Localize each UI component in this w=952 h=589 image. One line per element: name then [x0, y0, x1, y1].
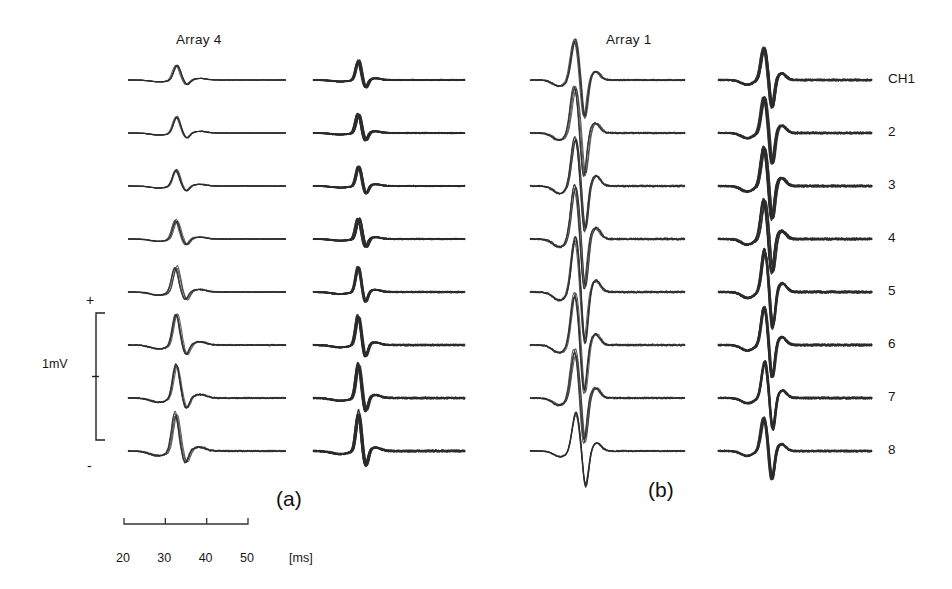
waveform-column-4	[718, 47, 872, 480]
waveform-trace-col3-CH1	[530, 39, 685, 119]
time-axis-ruler	[124, 518, 248, 524]
waveform-trace-col3-4	[530, 184, 685, 289]
waveform-plot-svg	[0, 0, 952, 589]
waveform-trace-col2-7	[313, 363, 465, 412]
waveform-column-1	[128, 65, 286, 463]
waveform-trace-col4-5	[718, 249, 872, 330]
waveform-trace-col2-5	[313, 267, 465, 303]
waveform-trace-col3-5	[530, 236, 685, 343]
waveform-trace-col2-8	[313, 410, 465, 467]
waveform-column-2	[313, 60, 465, 466]
waveform-trace-col4-4	[718, 199, 872, 274]
waveform-trace-col1-2	[128, 116, 286, 138]
waveform-trace-col2-4	[313, 218, 465, 247]
waveform-trace-col1-8	[128, 411, 286, 463]
waveform-trace-col4-8	[718, 417, 872, 480]
waveform-trace-col1-3	[128, 169, 286, 191]
waveform-trace-col3-3	[530, 137, 685, 233]
waveform-trace-col4-3	[718, 146, 872, 220]
waveform-trace-col4-CH1	[718, 47, 872, 108]
waveform-trace-col2-3	[313, 166, 465, 194]
figure-canvas: Array 4 Array 1 (a) (b) 1mV + - [ms] CH1…	[0, 0, 952, 589]
waveform-trace-col1-CH1	[128, 65, 286, 85]
waveform-trace-col1-6	[128, 314, 286, 355]
waveform-trace-col2-2	[313, 113, 465, 140]
waveform-trace-col3-7	[530, 349, 685, 444]
waveform-trace-col2-CH1	[313, 60, 465, 88]
waveform-trace-col4-7	[718, 361, 872, 431]
waveform-trace-col4-2	[718, 97, 872, 164]
waveform-column-3	[530, 39, 685, 488]
waveform-trace-col3-2	[530, 86, 685, 176]
waveform-trace-col1-4	[128, 219, 286, 245]
waveform-trace-col1-5	[128, 266, 286, 300]
waveform-trace-col4-6	[718, 306, 872, 377]
waveform-trace-col2-6	[313, 315, 465, 357]
waveform-trace-col3-6	[530, 293, 685, 394]
waveform-trace-col1-7	[128, 364, 286, 409]
waveform-trace-col3-8	[530, 412, 685, 488]
